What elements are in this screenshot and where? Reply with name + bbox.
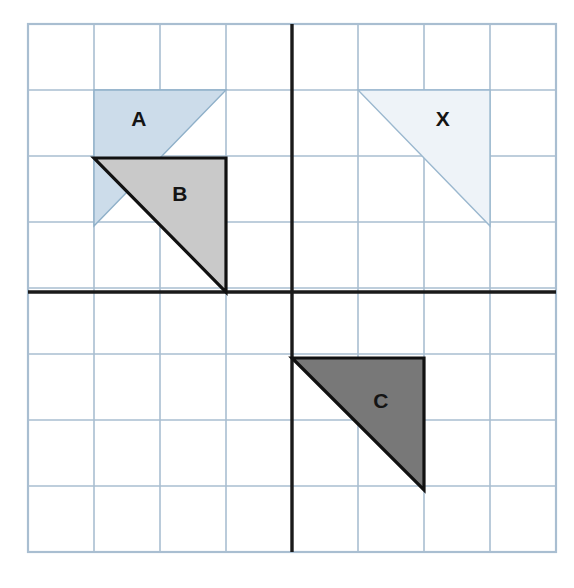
grid-canvas <box>0 0 574 588</box>
geometry-diagram: AXBC <box>0 0 574 588</box>
triangle-a-label: A <box>131 108 147 129</box>
triangle-c-label: C <box>373 390 389 411</box>
triangle-x-label: X <box>436 108 451 129</box>
triangle-b-label: B <box>172 183 188 204</box>
